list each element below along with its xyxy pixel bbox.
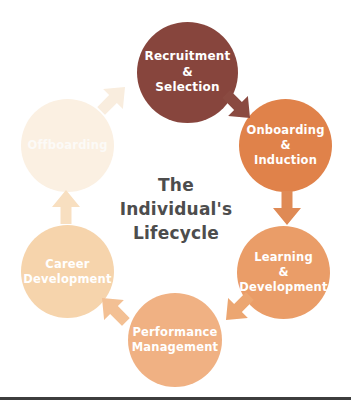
arrow-career-to-offboarding-icon <box>52 190 80 224</box>
stage-label-learning-development: Learning & Development <box>239 250 327 295</box>
stage-label-offboarding: Offboarding <box>27 138 107 153</box>
diagram-title: The Individual's Lifecycle <box>96 174 256 245</box>
bottom-divider <box>0 397 351 400</box>
stage-label-onboarding-induction: Onboarding & Induction <box>246 123 324 168</box>
stage-circle-performance-management: Performance Management <box>128 293 222 387</box>
stage-label-performance-management: Performance Management <box>132 325 219 355</box>
stage-label-recruitment-selection: Recruitment & Selection <box>145 49 231 96</box>
lifecycle-diagram: Recruitment & Selection Onboarding & Ind… <box>0 0 351 411</box>
stage-label-career-development: Career Development <box>23 257 111 287</box>
arrow-onboarding-to-learning-icon <box>273 191 301 225</box>
